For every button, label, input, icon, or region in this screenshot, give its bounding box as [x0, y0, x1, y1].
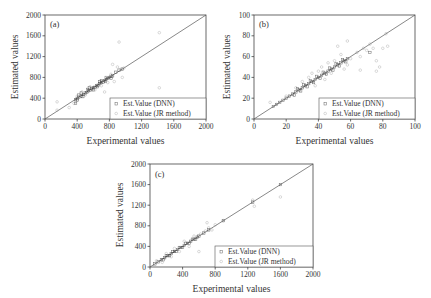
x-tick-label: 1600	[166, 122, 181, 131]
data-point-jr	[183, 240, 186, 243]
legend-label-dnn: Est.Value (DNN)	[123, 99, 175, 108]
data-point-dnn	[86, 88, 88, 90]
y-tick-label: 0	[37, 115, 41, 124]
y-axis-title: Estimated values	[115, 182, 125, 247]
data-point-dnn	[369, 51, 371, 53]
x-tick-label: 800	[210, 270, 222, 279]
data-point-jr	[346, 40, 349, 43]
panel-label: (b)	[259, 19, 269, 29]
legend-label-dnn: Est.Value (DNN)	[332, 99, 384, 108]
data-point-jr	[327, 62, 330, 65]
legend: Est.Value (DNN) Est.Value (JR method)	[215, 246, 313, 267]
y-axis-title: Estimated values	[10, 34, 20, 99]
data-point-jr	[375, 59, 378, 62]
x-axis-title: Experimental values	[193, 284, 271, 294]
legend-label-jr: Est.Value (JR method)	[123, 109, 191, 118]
data-point-jr	[279, 196, 282, 199]
x-tick-label: 20	[282, 122, 290, 131]
data-point-jr	[113, 80, 116, 83]
data-point-jr	[340, 53, 343, 56]
data-point-jr	[158, 87, 161, 90]
y-tick-label: 1600	[26, 31, 41, 40]
x-tick-label: 1200	[240, 270, 255, 279]
data-point-jr	[320, 66, 323, 69]
data-point-jr	[301, 80, 304, 83]
legend-label-jr: Est.Value (JR method)	[228, 257, 296, 266]
data-point-jr	[307, 76, 310, 79]
data-point-jr	[188, 245, 191, 248]
data-point-jr	[333, 59, 336, 62]
legend-label-dnn: Est.Value (DNN)	[228, 247, 280, 256]
panel-label: (a)	[50, 19, 60, 29]
x-tick-label: 2000	[306, 270, 321, 279]
data-point-jr	[375, 70, 378, 73]
x-tick-label: 1600	[273, 270, 288, 279]
data-point-jr	[386, 45, 389, 48]
data-point-jr	[349, 57, 352, 60]
data-point-jr	[269, 101, 272, 104]
x-tick-label: 60	[347, 122, 355, 131]
x-tick-label: 400	[177, 270, 189, 279]
panel-label: (c)	[155, 169, 165, 179]
figure: (a) 040080012001600200004008001200160020…	[0, 0, 431, 298]
x-tick-label: 400	[72, 122, 84, 131]
y-tick-label: 40	[243, 73, 251, 82]
data-point-jr	[330, 72, 333, 75]
y-tick-label: 800	[135, 221, 147, 230]
y-tick-label: 400	[135, 242, 147, 251]
data-point-jr	[173, 247, 176, 250]
x-tick-label: 0	[43, 122, 47, 131]
y-tick-label: 800	[30, 73, 42, 82]
data-point-jr	[314, 84, 317, 87]
data-point-jr	[68, 106, 71, 109]
panel-c: (c) 040080012001600200004008001200160020…	[115, 160, 321, 295]
data-point-jr	[193, 235, 196, 238]
x-tick-label: 0	[252, 122, 256, 131]
data-point-jr	[343, 68, 346, 71]
data-point-jr	[161, 261, 164, 264]
y-tick-label: 1600	[131, 180, 146, 189]
data-point-jr	[94, 89, 97, 92]
x-tick-label: 2000	[199, 122, 214, 131]
data-point-jr	[365, 49, 368, 52]
data-point-jr	[378, 66, 381, 69]
data-point-jr	[100, 84, 103, 87]
data-point-jr	[73, 102, 76, 105]
data-point-jr	[324, 78, 327, 81]
y-tick-label: 1200	[131, 201, 146, 210]
data-point-jr	[106, 81, 109, 84]
data-point-jr	[178, 250, 181, 253]
x-axis-title: Experimental values	[296, 136, 374, 146]
x-tick-label: 100	[409, 122, 421, 131]
data-point-jr	[158, 31, 161, 34]
y-tick-label: 80	[243, 31, 251, 40]
data-point-jr	[121, 76, 124, 79]
x-axis-title: Experimental values	[87, 136, 165, 146]
scatter-points	[269, 32, 389, 107]
data-point-jr	[317, 70, 320, 73]
data-point-jr	[198, 250, 201, 253]
legend-label-jr: Est.Value (JR method)	[332, 109, 400, 118]
legend: Est.Value (DNN) Est.Value (JR method)	[110, 98, 206, 119]
y-tick-label: 400	[30, 94, 42, 103]
data-point-jr	[359, 69, 362, 72]
data-point-jr	[111, 63, 114, 66]
y-tick-label: 0	[246, 115, 250, 124]
y-tick-label: 0	[142, 263, 146, 272]
x-tick-label: 40	[315, 122, 323, 131]
y-tick-label: 1200	[26, 52, 41, 61]
y-tick-label: 2000	[131, 160, 146, 169]
data-point-jr	[336, 45, 339, 48]
data-point-jr	[382, 47, 385, 50]
data-point-jr	[311, 72, 314, 75]
y-tick-label: 100	[239, 11, 251, 20]
x-tick-label: 800	[104, 122, 116, 131]
data-point-jr	[103, 91, 106, 94]
y-tick-label: 20	[243, 94, 251, 103]
data-point-jr	[56, 101, 59, 104]
panel-b: (b) 020406080100020406080100 Experimenta…	[222, 11, 421, 147]
data-point-jr	[372, 47, 375, 50]
data-point-jr	[116, 66, 119, 69]
data-point-jr	[118, 41, 121, 44]
x-tick-label: 1200	[134, 122, 149, 131]
